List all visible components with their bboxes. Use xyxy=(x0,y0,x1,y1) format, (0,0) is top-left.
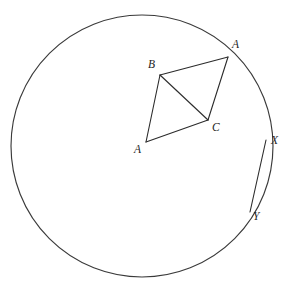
edge-Abottom-C xyxy=(146,120,208,142)
label-Y: Y xyxy=(253,211,259,223)
label-A-top: A xyxy=(232,39,239,51)
edge-Atop-B xyxy=(160,57,228,75)
label-B: B xyxy=(148,59,155,71)
label-A-bottom: A xyxy=(134,144,141,156)
geometry-figure: A B A C X Y xyxy=(0,0,304,292)
edge-B-Abottom xyxy=(146,75,160,142)
figure-canvas xyxy=(0,0,304,292)
edge-C-Atop xyxy=(208,57,228,120)
diagonal-B-C xyxy=(160,75,208,120)
label-C: C xyxy=(212,122,220,134)
inner-arc-XY xyxy=(250,140,266,212)
label-X: X xyxy=(271,135,278,147)
main-circle xyxy=(11,15,273,277)
